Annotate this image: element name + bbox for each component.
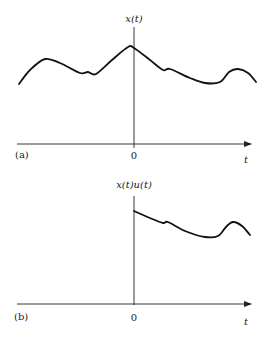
panel-a-label: (a): [15, 149, 29, 160]
panel-a-origin-label: 0: [131, 150, 137, 161]
panel-a-x-axis-label: t: [244, 154, 249, 165]
panel-b-x-axis-label: t: [244, 316, 249, 327]
panel-b-y-axis-label: x(t)u(t): [116, 179, 152, 190]
signal-figure: x(t) (a) 0 t x(t)u(t) (b) 0 t: [0, 0, 267, 340]
panel-b: x(t)u(t) (b) 0 t: [14, 179, 251, 327]
panel-b-signal-curve: [134, 211, 250, 237]
panel-b-origin-label: 0: [131, 312, 137, 323]
panel-a-signal-curve: [19, 46, 256, 84]
panel-a: x(t) (a) 0 t: [15, 13, 256, 165]
panel-a-y-axis-label: x(t): [125, 13, 143, 24]
panel-b-label: (b): [14, 311, 28, 322]
